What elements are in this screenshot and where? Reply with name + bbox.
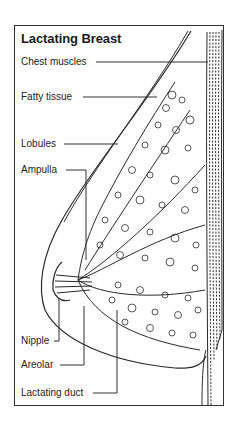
label-lactating-duct: Lactating duct [21,387,83,398]
diagram-title: Lactating Breast [21,31,121,46]
label-areolar: Areolar [21,359,53,370]
label-chest-muscles: Chest muscles [21,56,87,67]
chest-muscle-strip [202,30,222,405]
leader-lines [54,62,208,393]
label-ampulla: Ampulla [21,164,57,175]
skin-outline [41,31,206,368]
label-fatty-tissue: Fatty tissue [21,91,72,102]
label-lobules: Lobules [21,138,56,149]
label-nipple: Nipple [21,335,49,346]
